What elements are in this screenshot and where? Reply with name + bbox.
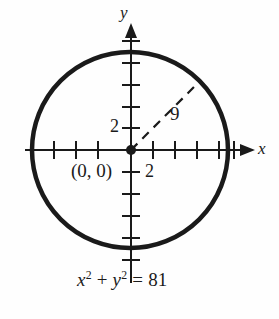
y-axis-arrow-icon <box>125 23 137 38</box>
equation-y-variable: y <box>113 269 122 290</box>
equation-value: 81 <box>148 269 167 290</box>
equation-x-variable: x <box>77 269 86 290</box>
equation-x-exponent: 2 <box>86 269 92 282</box>
origin-coordinate-label: (0, 0) <box>71 161 112 180</box>
circle-graph-figure: y x 2 2 (0, 0) 9 x2 + y2 = 81 <box>0 0 279 319</box>
y-axis-tick-label-2: 2 <box>110 117 119 135</box>
equation-equals-sign: = <box>132 269 143 290</box>
equation-plus-sign: + <box>97 269 108 290</box>
origin-point-marker <box>126 145 136 155</box>
y-axis-label: y <box>120 4 128 21</box>
radius-length-label: 9 <box>170 104 180 123</box>
equation-caption: x2 + y2 = 81 <box>77 270 168 289</box>
radius-dashed-line <box>131 81 200 150</box>
x-axis-arrow-icon <box>240 144 255 156</box>
x-axis-label: x <box>258 140 266 157</box>
x-axis-tick-label-2: 2 <box>145 162 154 180</box>
equation-y-exponent: 2 <box>121 269 127 282</box>
